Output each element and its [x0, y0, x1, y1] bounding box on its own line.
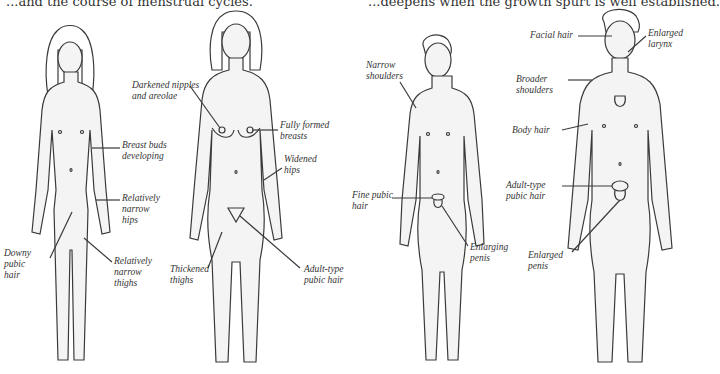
label-adult-type-pubic-hair-woman: Adult-type pubic hair [304, 264, 344, 286]
figure-girl [32, 26, 120, 361]
label-narrow-shoulders: Narrow shoulders [366, 60, 403, 82]
label-fully-formed-breasts: Fully formed breasts [280, 120, 329, 142]
label-enlarged-penis: Enlarged penis [528, 250, 563, 272]
label-widened-hips: Widened hips [284, 154, 317, 176]
figure-boy [392, 35, 484, 360]
label-breast-buds-developing: Breast buds developing [122, 140, 167, 162]
label-downy-pubic-hair: Downy pubic hair [4, 248, 31, 281]
label-thickened-thighs: Thickened thighs [170, 264, 209, 286]
label-relatively-narrow-thighs: Relatively narrow thighs [114, 256, 152, 289]
label-body-hair: Body hair [512, 125, 550, 136]
label-enlarged-larynx: Enlarged larynx [648, 28, 683, 50]
figure-man [562, 9, 672, 362]
label-broader-shoulders: Broader shoulders [516, 74, 553, 96]
label-darkened-nipples-areolae: Darkened nipples and areolae [132, 80, 199, 102]
label-enlarging-penis: Enlarging penis [470, 242, 508, 264]
label-adult-type-pubic-hair-man: Adult-type pubic hair [506, 180, 546, 202]
figure-woman [190, 11, 300, 362]
label-fine-pubic-hair: Fine pubic hair [352, 190, 393, 212]
label-relatively-narrow-hips: Relatively narrow hips [122, 193, 160, 226]
label-facial-hair: Facial hair [530, 30, 573, 41]
